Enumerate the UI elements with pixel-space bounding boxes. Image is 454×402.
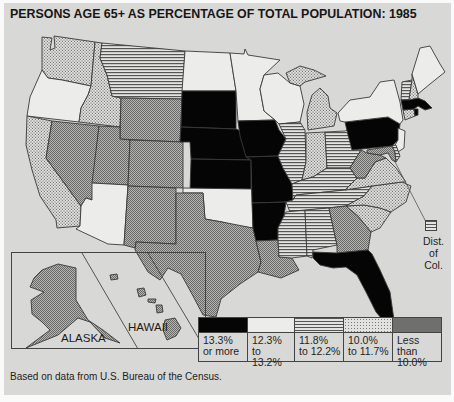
state-rhode-island xyxy=(414,109,418,116)
state-colorado xyxy=(128,140,183,188)
legend: 13.3% or more 12.3% to 13.2% 11.8% to 12… xyxy=(198,317,442,362)
state-florida xyxy=(313,250,394,325)
map-title: PERSONS AGE 65+ AS PERCENTAGE OF TOTAL P… xyxy=(10,7,417,21)
legend-item-10-0-to-11-7: 10.0% to 11.7% xyxy=(344,318,393,361)
state-michigan xyxy=(307,88,337,130)
state-kansas xyxy=(190,159,251,192)
legend-item-13-3-or-more: 13.3% or more xyxy=(199,318,248,361)
dc-label: Dist. of Col. xyxy=(423,235,444,271)
alaska-hawaii-inset xyxy=(11,252,206,349)
legend-swatch-white xyxy=(248,318,294,333)
state-pennsylvania xyxy=(345,117,400,150)
legend-swatch-horizontal-lines xyxy=(295,318,343,333)
legend-item-less-than-10: Less than 10.0% xyxy=(393,318,442,361)
state-maine xyxy=(412,46,445,94)
legend-swatch-dense-dots xyxy=(393,318,441,333)
legend-item-11-8-to-12-2: 11.8% to 12.2% xyxy=(295,318,344,361)
source-footnote: Based on data from U.S. Bureau of the Ce… xyxy=(10,371,222,382)
legend-item-12-3-to-13-2: 12.3% to 13.2% xyxy=(248,318,295,361)
state-wyoming xyxy=(120,98,182,142)
legend-swatch-light-dots xyxy=(344,318,392,333)
state-montana xyxy=(100,43,185,99)
state-new-york xyxy=(338,80,403,124)
state-south-dakota xyxy=(181,91,236,129)
legend-swatch-black xyxy=(199,318,247,333)
state-connecticut xyxy=(403,109,415,120)
hawaii-label: HAWAII xyxy=(128,321,168,333)
dc-swatch xyxy=(425,220,437,231)
state-iowa xyxy=(238,120,286,157)
state-north-dakota xyxy=(182,51,236,91)
state-new-mexico xyxy=(124,186,176,248)
state-michigan-up xyxy=(286,66,326,86)
alaska-label: ALASKA xyxy=(61,332,106,344)
